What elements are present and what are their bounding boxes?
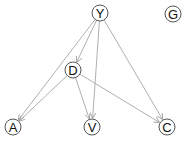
dag-diagram: YGDAVC bbox=[0, 0, 190, 142]
node-v: V bbox=[84, 119, 100, 135]
edge-y-to-v bbox=[93, 21, 100, 118]
node-a: A bbox=[5, 119, 21, 135]
edge-d-to-c bbox=[80, 74, 159, 122]
node-label: V bbox=[88, 120, 97, 135]
node-label: G bbox=[168, 7, 178, 22]
node-g: G bbox=[165, 6, 181, 22]
node-label: Y bbox=[96, 6, 105, 21]
node-label: A bbox=[9, 120, 18, 135]
edge-y-to-d bbox=[77, 20, 97, 62]
node-y: Y bbox=[92, 5, 108, 21]
node-label: D bbox=[68, 63, 77, 78]
edge-d-to-v bbox=[76, 78, 90, 119]
edges-layer bbox=[18, 19, 162, 122]
node-c: C bbox=[159, 119, 175, 135]
node-label: C bbox=[162, 120, 171, 135]
edge-y-to-a bbox=[18, 19, 95, 119]
edge-d-to-a bbox=[20, 76, 68, 121]
edge-y-to-c bbox=[104, 20, 162, 119]
node-d: D bbox=[65, 62, 81, 78]
